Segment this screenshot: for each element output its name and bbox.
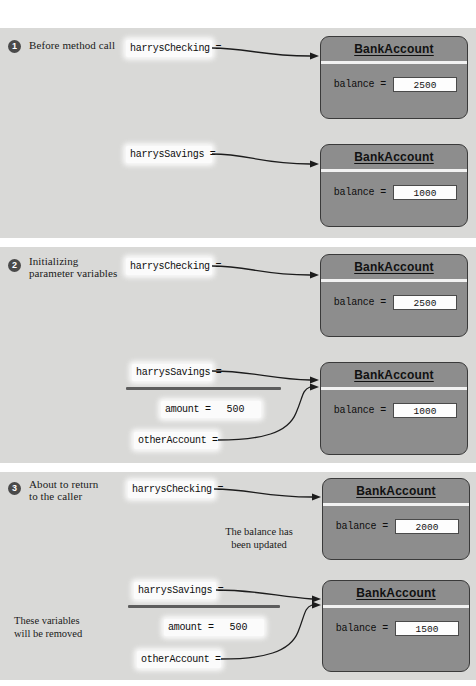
arrowhead [312, 494, 321, 501]
arrow-harryssavings-to-object [216, 590, 312, 599]
arrow-otheraccount-to-object [221, 605, 312, 659]
arrow-otheraccount-to-object [218, 387, 310, 440]
reference-arrows-1 [0, 28, 476, 238]
reference-arrows-3 [0, 472, 476, 680]
arrowhead [310, 272, 319, 279]
arrowhead [312, 602, 321, 609]
arrowhead [312, 596, 321, 603]
figure-stage: 1 Before method call harrysChecking = ha… [0, 0, 476, 686]
arrowhead [310, 384, 319, 391]
arrow-harryssavings-to-object [212, 154, 310, 164]
step-panel-2: 2 Initializing parameter variables harry… [0, 247, 476, 463]
reference-arrows-2 [0, 247, 476, 463]
arrow-harryschecking-to-object [212, 266, 310, 275]
arrow-harryschecking-to-object [212, 48, 310, 56]
arrowhead [310, 53, 319, 60]
arrowhead [310, 161, 319, 168]
step-panel-3: 3 About to return to the caller harrysCh… [0, 472, 476, 680]
step-panel-1: 1 Before method call harrysChecking = ha… [0, 28, 476, 238]
arrowhead [310, 377, 319, 384]
arrow-harryssavings-to-object [212, 371, 310, 380]
arrow-harryschecking-to-object [214, 489, 312, 497]
